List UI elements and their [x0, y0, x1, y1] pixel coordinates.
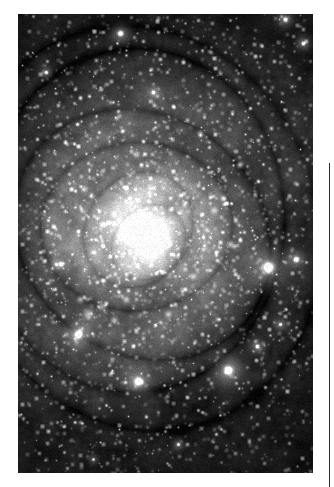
page-canvas — [0, 0, 334, 487]
galaxy-image — [18, 14, 313, 473]
galaxy-photograph-plate — [18, 14, 313, 473]
column-rule-divider — [329, 163, 330, 487]
